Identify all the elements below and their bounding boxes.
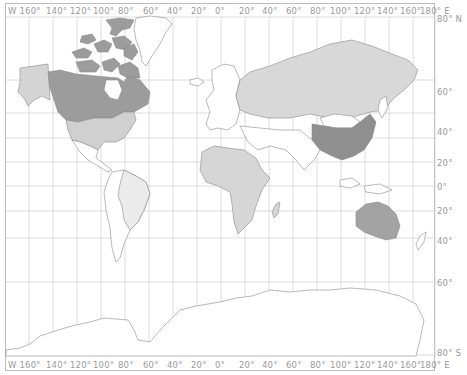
- new-guinea: [364, 184, 392, 194]
- madagascar: [272, 202, 280, 218]
- bottom-longitude-label: 100°: [93, 360, 114, 370]
- top-longitude-label: W 160°: [8, 6, 41, 16]
- bottom-longitude-label: 40°: [167, 360, 183, 370]
- greenland: [134, 16, 172, 66]
- bottom-longitude-label: 20°: [239, 360, 255, 370]
- top-longitude-label: 140°: [46, 6, 67, 16]
- africa: [200, 146, 270, 234]
- europe: [206, 64, 240, 130]
- latitude-label: 40°: [437, 127, 453, 137]
- bottom-longitude-label: 20°: [191, 360, 207, 370]
- world-map: [0, 0, 467, 375]
- new-zealand: [416, 232, 426, 250]
- top-longitude-label: 100°: [93, 6, 114, 16]
- iceland: [190, 78, 204, 86]
- top-longitude-label: 100°: [330, 6, 351, 16]
- latitude-label: 0°: [437, 182, 447, 192]
- latitude-label: 40°: [437, 236, 453, 246]
- top-longitude-label: 120°: [70, 6, 91, 16]
- top-longitude-label: 120°: [354, 6, 375, 16]
- latitude-label: 60°: [437, 278, 453, 288]
- latitude-label: 20°: [437, 158, 453, 168]
- bottom-longitude-label: 60°: [286, 360, 302, 370]
- top-longitude-label: 0°: [215, 6, 225, 16]
- latitude-label: 80° N: [437, 14, 462, 24]
- top-longitude-label: 160°: [400, 6, 421, 16]
- bottom-longitude-label: 140°: [377, 360, 398, 370]
- top-longitude-label: 60°: [286, 6, 302, 16]
- top-longitude-label: 20°: [191, 6, 207, 16]
- indonesia: [340, 178, 360, 188]
- top-longitude-label: 140°: [377, 6, 398, 16]
- bottom-longitude-label: 40°: [262, 360, 278, 370]
- bottom-longitude-label: 140°: [46, 360, 67, 370]
- antarctica: [6, 288, 424, 356]
- bottom-longitude-label: 160°: [400, 360, 421, 370]
- latitude-label: 60°: [437, 87, 453, 97]
- bottom-longitude-label: 60°: [143, 360, 159, 370]
- australia: [356, 202, 400, 240]
- bottom-longitude-label: 80°: [310, 360, 326, 370]
- top-longitude-label: 20°: [239, 6, 255, 16]
- alaska: [18, 64, 50, 106]
- bottom-longitude-label: 120°: [354, 360, 375, 370]
- bottom-longitude-label: 100°: [330, 360, 351, 370]
- top-longitude-label: 80°: [310, 6, 326, 16]
- latitude-label: 80° S: [437, 348, 461, 358]
- bottom-longitude-label: 0°: [215, 360, 225, 370]
- top-longitude-label: 60°: [143, 6, 159, 16]
- latitude-label: 20°: [437, 206, 453, 216]
- top-longitude-label: 80°: [118, 6, 134, 16]
- bottom-longitude-label: 80°: [118, 360, 134, 370]
- russia: [236, 40, 418, 118]
- bottom-longitude-label: 120°: [70, 360, 91, 370]
- canadian-arctic-islands: [72, 18, 140, 78]
- bottom-longitude-label: W 160°: [8, 360, 41, 370]
- bottom-longitude-label: 180° E: [420, 360, 450, 370]
- top-longitude-label: 40°: [167, 6, 183, 16]
- top-longitude-label: 40°: [262, 6, 278, 16]
